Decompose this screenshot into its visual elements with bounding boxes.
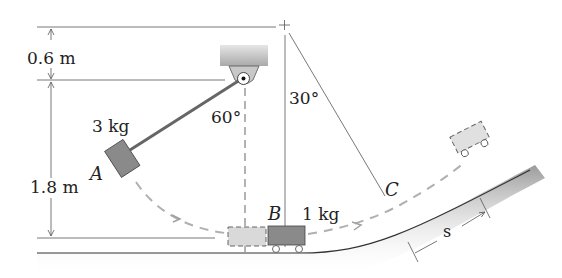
mass-b-label: 1 kg: [302, 204, 340, 224]
dim-top-label: 0.6 m: [27, 48, 76, 68]
crosshair-icon: [279, 20, 290, 30]
block-a: [105, 139, 140, 177]
pivot-icon: [238, 73, 250, 85]
mass-a-label: 3 kg: [92, 116, 130, 136]
ghost-cart-bottom: [228, 227, 266, 246]
ghost-cart-slope: [450, 121, 492, 159]
cart-path-arrow-icon: [352, 222, 361, 230]
cart-b: [268, 226, 305, 253]
angle-c-label: 30°: [289, 88, 319, 108]
distance-s-label: s: [443, 222, 451, 241]
point-b-label: B: [267, 203, 281, 224]
radius-line-c: [289, 33, 385, 196]
swing-path: [136, 182, 225, 233]
point-a-label: A: [88, 163, 103, 184]
angle-pendulum-label: 60°: [211, 107, 241, 127]
dim-height-label: 1.8 m: [30, 177, 79, 197]
pendulum-cart-diagram: 0.6 m 1.8 m 3 kg A 60° 30° B 1 kg C: [0, 0, 562, 278]
point-c-label: C: [385, 179, 399, 200]
